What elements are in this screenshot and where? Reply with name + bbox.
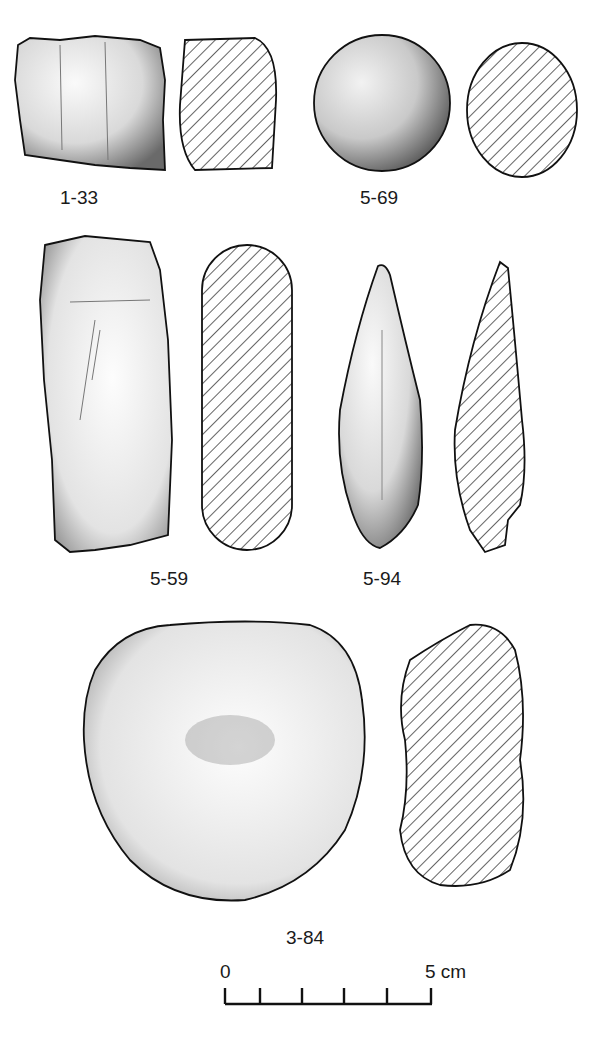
artifact-5-59-section [202, 245, 292, 550]
scale-start-label: 0 [220, 961, 231, 983]
artifact-5-59-drawing [40, 236, 172, 552]
artifact-5-69-drawing [314, 35, 450, 171]
artifact-1-33-drawing [15, 36, 165, 170]
artifact-3-84-section [400, 625, 523, 886]
artifact-5-94-drawing [339, 265, 422, 548]
artifact-label-5-69: 5-69 [360, 187, 398, 209]
artifact-1-33-section [180, 38, 276, 170]
artifact-5-69-section [467, 43, 577, 177]
artifact-5-94-section [455, 262, 525, 552]
scale-bar [225, 988, 432, 1004]
artifact-label-5-59: 5-59 [150, 568, 188, 590]
scale-end-label: 5 cm [425, 961, 466, 983]
artifact-label-3-84: 3-84 [286, 927, 324, 949]
artifact-plate [0, 0, 592, 1038]
artifact-label-5-94: 5-94 [363, 568, 401, 590]
artifact-label-1-33: 1-33 [60, 187, 98, 209]
artifact-3-84-drawing [84, 622, 365, 901]
